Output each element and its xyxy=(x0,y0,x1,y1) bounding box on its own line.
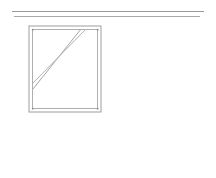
elevation-drawing-canvas xyxy=(0,0,216,178)
panel-outer-rect xyxy=(29,26,101,112)
panel-diagonal-line-b xyxy=(33,29,86,83)
panel-inner-rect xyxy=(33,30,98,109)
panel-corner-mark-br xyxy=(97,108,99,110)
panel-corner-marks xyxy=(32,29,99,110)
elevation-drawing-svg xyxy=(0,0,216,178)
panel-corner-mark-tl xyxy=(32,29,34,31)
panel-corner-mark-bl xyxy=(32,108,34,110)
panel-corner-mark-tr xyxy=(97,29,99,31)
